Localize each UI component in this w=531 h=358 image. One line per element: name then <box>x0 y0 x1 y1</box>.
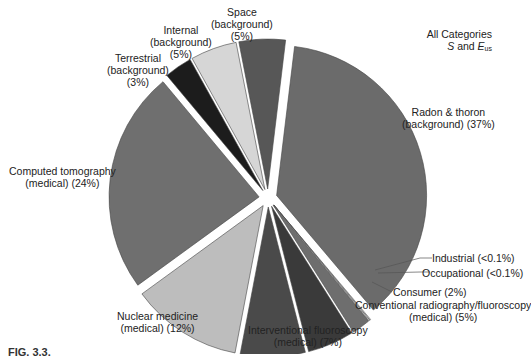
label-industrial: Industrial (<0.1%) <box>432 252 515 264</box>
label-space: Space (background) (5%) <box>211 6 273 42</box>
label-interventional-line1: Interventional fluoroscopy <box>248 324 368 336</box>
label-nuclear: Nuclear medicine (medical) (12%) <box>117 310 198 334</box>
label-consumer: Consumer (2%) <box>393 286 467 298</box>
label-internal: Internal (background) (5%) <box>150 24 212 60</box>
label-ct-line2: (medical) (24%) <box>9 177 116 189</box>
label-space-line1: Space <box>211 6 273 18</box>
title-subscript: us <box>485 45 492 52</box>
label-internal-line3: (5%) <box>150 48 212 60</box>
label-conventional-line1: Conventional radiography/fluoroscopy <box>355 299 531 311</box>
label-ct-line1: Computed tomography <box>9 165 116 177</box>
label-terrestrial-line2: (background) <box>107 64 169 76</box>
label-terrestrial-line3: (3%) <box>107 76 169 88</box>
label-space-line3: (5%) <box>211 30 273 42</box>
label-interventional-line2: (medical) (7%) <box>248 336 368 348</box>
figure-caption: FIG. 3.3. <box>8 346 51 358</box>
label-radon: Radon & thoron (background) (37%) <box>402 106 495 130</box>
label-radon-line2: (background) (37%) <box>402 118 495 130</box>
label-ct: Computed tomography (medical) (24%) <box>9 165 116 189</box>
title-line2: S and Eus <box>427 40 492 55</box>
title-symbol-e: E <box>478 40 485 52</box>
label-interventional: Interventional fluoroscopy (medical) (7%… <box>248 324 368 348</box>
title-and: and <box>454 40 477 52</box>
label-internal-line1: Internal <box>150 24 212 36</box>
label-conventional: Conventional radiography/fluoroscopy (me… <box>355 299 531 323</box>
label-internal-line2: (background) <box>150 36 212 48</box>
label-nuclear-line2: (medical) (12%) <box>117 322 198 334</box>
chart-title: All Categories S and Eus <box>427 28 492 55</box>
title-line1: All Categories <box>427 28 492 40</box>
label-nuclear-line1: Nuclear medicine <box>117 310 198 322</box>
label-conventional-line2: (medical) (5%) <box>355 311 531 323</box>
label-occupational: Occupational (<0.1%) <box>422 267 523 279</box>
label-space-line2: (background) <box>211 18 273 30</box>
label-radon-line1: Radon & thoron <box>402 106 495 118</box>
